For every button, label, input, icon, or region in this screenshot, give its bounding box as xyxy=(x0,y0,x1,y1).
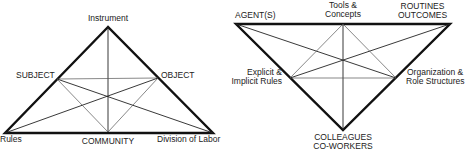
label-agents: AGENT(S) xyxy=(235,11,276,20)
label-role-structures: Role Structures xyxy=(406,77,465,86)
label-instrument: Instrument xyxy=(83,14,133,23)
label-object: OBJECT xyxy=(161,71,195,80)
label-implicit-rules: Implicit Rules xyxy=(222,77,282,86)
label-division-of-labor: Division of Labor xyxy=(157,135,220,144)
label-rules: Rules xyxy=(0,135,22,144)
left-triangle xyxy=(5,27,213,133)
label-concepts: Concepts xyxy=(318,10,368,19)
label-community: COMMUNITY xyxy=(78,137,138,146)
label-co-workers: CO-WORKERS xyxy=(313,142,373,151)
label-subject: SUBJECT xyxy=(16,71,55,80)
label-outcomes: OUTCOMES xyxy=(395,11,450,20)
